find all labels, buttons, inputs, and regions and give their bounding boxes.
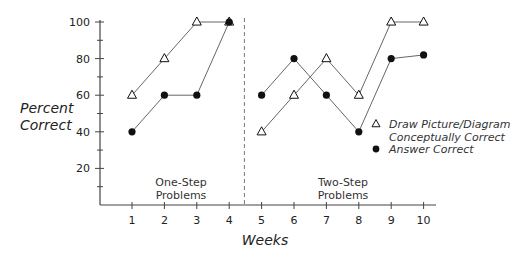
x-tick-label: 10 [417, 214, 431, 227]
x-tick-label: 4 [226, 214, 233, 227]
legend-circle-icon [373, 146, 380, 153]
filled-circle-marker [193, 92, 200, 99]
x-tick-label: 2 [161, 214, 168, 227]
filled-circle-marker [355, 128, 362, 135]
line-chart: Percent Correct 20406080100 12345678910 … [0, 0, 519, 260]
y-axis-title: Percent Correct [20, 100, 74, 133]
filled-circle-marker [420, 51, 427, 58]
phase-label: Two-Step [317, 176, 368, 189]
filled-circle-marker [161, 92, 168, 99]
open-triangle-marker [322, 54, 331, 62]
phase-label: One-Step [155, 176, 206, 189]
y-axis-title-line-1: Percent [20, 100, 74, 116]
series-line-diagram [132, 22, 229, 95]
legend-triangle-icon [372, 120, 380, 127]
x-tick-label: 5 [258, 214, 265, 227]
y-tick-label: 60 [76, 89, 90, 102]
x-tick-label: 7 [323, 214, 330, 227]
y-axis-ticks: 20406080100 [69, 16, 104, 187]
y-axis-title-line-2: Correct [20, 117, 72, 133]
series-lines [132, 22, 424, 132]
x-tick-label: 1 [129, 214, 136, 227]
y-tick-label: 80 [76, 53, 90, 66]
x-axis-title: Weeks [242, 232, 288, 248]
filled-circle-marker [128, 128, 135, 135]
open-triangle-marker [387, 17, 396, 25]
filled-circle-marker [290, 55, 297, 62]
y-tick-label: 100 [69, 16, 90, 29]
open-triangle-marker [419, 17, 428, 25]
phase-label: Problems [156, 189, 207, 202]
y-tick-label: 40 [76, 126, 90, 139]
phase-labels: One-StepProblemsTwo-StepProblems [155, 176, 368, 202]
filled-circle-marker [388, 55, 395, 62]
x-axis-ticks: 12345678910 [129, 202, 431, 227]
x-tick-label: 8 [355, 214, 362, 227]
x-tick-label: 3 [193, 214, 200, 227]
filled-circle-marker [226, 18, 233, 25]
series-line-answer [132, 22, 229, 132]
series-line-diagram [262, 22, 424, 132]
x-tick-label: 6 [291, 214, 298, 227]
legend-label-answer: Answer Correct [388, 143, 474, 156]
filled-circle-marker [323, 92, 330, 99]
phase-label: Problems [318, 189, 369, 202]
y-tick-label: 20 [76, 162, 90, 175]
open-triangle-marker [192, 17, 201, 25]
x-tick-label: 9 [388, 214, 395, 227]
filled-circle-marker [258, 92, 265, 99]
legend-label-diagram: Draw Picture/Diagram [389, 118, 510, 131]
axes [100, 20, 436, 205]
legend: Draw Picture/DiagramConceptually Correct… [372, 118, 510, 156]
